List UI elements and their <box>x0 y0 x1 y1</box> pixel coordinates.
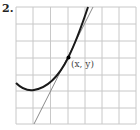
curve <box>16 7 88 90</box>
graph: (x, y) <box>0 0 140 130</box>
point-label: (x, y) <box>71 59 94 69</box>
tangent-point <box>67 56 71 60</box>
